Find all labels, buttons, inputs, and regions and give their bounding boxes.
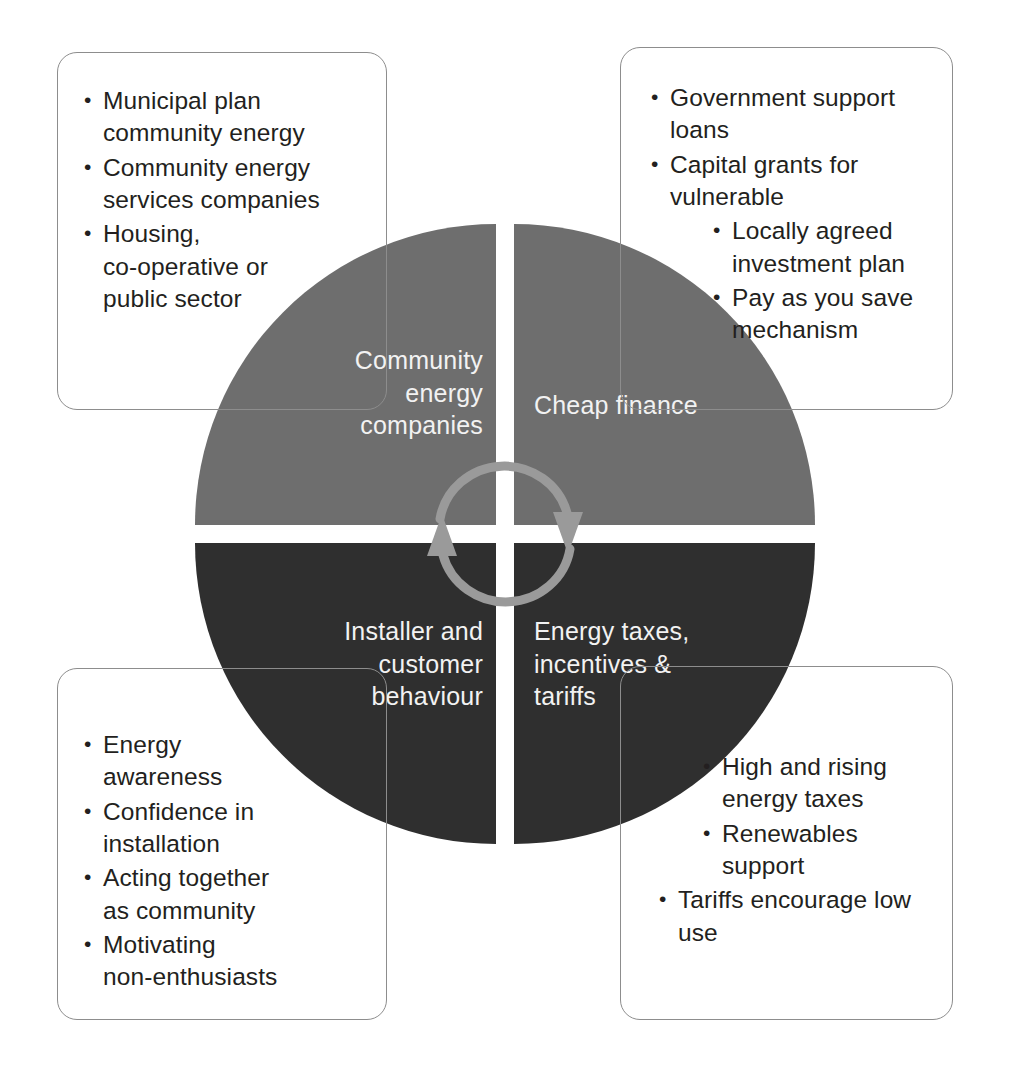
list-item: Tariffs encourage low use xyxy=(657,884,949,949)
list-item: High and rising energy taxes xyxy=(701,751,949,816)
list-item: Housing, co-operative or public sector xyxy=(82,218,382,315)
callout-list-top-right: Government support loans Capital grants … xyxy=(649,82,949,349)
callout-box-bottom-right: High and rising energy taxes Renewables … xyxy=(620,666,953,1020)
callout-box-top-left: Municipal plan community energy Communit… xyxy=(57,52,387,410)
list-item: Capital grants for vulnerable xyxy=(649,149,949,214)
list-item: Renewables support xyxy=(701,818,949,883)
callout-list-top-left: Municipal plan community energy Communit… xyxy=(82,85,382,317)
diagram-canvas: Community energy companies Cheap finance… xyxy=(0,0,1010,1072)
list-item: Energy awareness xyxy=(82,729,382,794)
callout-box-top-right: Government support loans Capital grants … xyxy=(620,47,953,410)
callout-box-bottom-left: Energy awareness Confidence in installat… xyxy=(57,668,387,1020)
list-item: Pay as you save mechanism xyxy=(711,282,949,347)
callout-list-bottom-left: Energy awareness Confidence in installat… xyxy=(82,729,382,996)
callout-list-bottom-right: High and rising energy taxes Renewables … xyxy=(639,751,949,951)
list-item: Acting together as community xyxy=(82,862,382,927)
list-item: Locally agreed investment plan xyxy=(711,215,949,280)
list-item: Municipal plan community energy xyxy=(82,85,382,150)
list-item: Community energy services companies xyxy=(82,152,382,217)
list-item: Motivating non-enthusiasts xyxy=(82,929,382,994)
list-item: Government support loans xyxy=(649,82,949,147)
list-item: Confidence in installation xyxy=(82,796,382,861)
